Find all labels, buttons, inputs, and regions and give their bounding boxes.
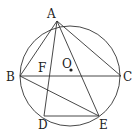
point-label-c: C [123, 70, 132, 84]
point-label-a: A [46, 7, 56, 21]
segment-be [20, 76, 99, 116]
geometry-diagram: ABCDEFO [0, 0, 139, 136]
point-label-b: B [6, 70, 15, 84]
point-label-d: D [38, 118, 48, 132]
point-label-o: O [62, 57, 72, 71]
point-label-e: E [99, 118, 108, 132]
point-label-f: F [38, 61, 46, 75]
